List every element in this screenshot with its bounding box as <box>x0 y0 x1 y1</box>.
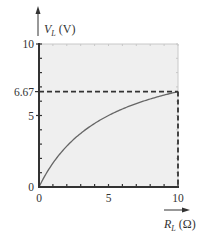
y-tick-label: 6.67 <box>14 86 34 98</box>
x-axis-arrow <box>164 208 190 213</box>
y-tick-label: 10 <box>23 38 35 50</box>
y-axis-arrow <box>36 6 41 36</box>
x-axis-label: RL (Ω) <box>163 217 196 233</box>
x-axis-label-unit: (Ω) <box>176 217 196 231</box>
x-tick-label: 0 <box>36 192 42 204</box>
chart: 0510056.6710 VL (V) RL (Ω) <box>0 0 204 239</box>
x-tick-label: 10 <box>172 192 184 204</box>
y-axis-label: VL (V) <box>44 22 75 38</box>
x-tick-label: 5 <box>106 192 112 204</box>
y-tick-label: 5 <box>28 110 34 122</box>
y-tick-label: 0 <box>28 181 34 193</box>
y-axis-label-unit: (V) <box>56 22 76 36</box>
